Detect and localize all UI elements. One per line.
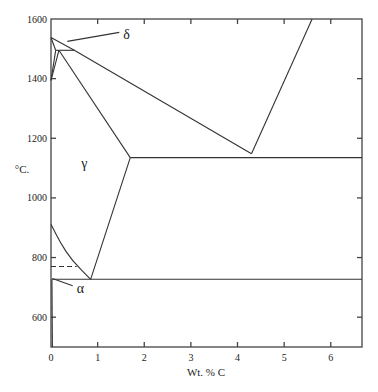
phase-boundary-liquidus-hypoeutectic [51,37,251,153]
y-axis-title: °C. [15,163,30,175]
y-tick-label: 800 [32,252,47,263]
y-tick-label: 1400 [27,73,47,84]
y-tick-label: 1600 [27,14,47,25]
phase-boundary-liquidus-hypereutectic [251,19,312,154]
x-tick-label: 6 [328,352,333,363]
y-tick-label: 1200 [27,133,47,144]
x-tick-label: 0 [49,352,54,363]
y-tick-label: 1000 [27,192,47,203]
x-axis-title: Wt. % C [187,366,225,378]
x-tick-label: 2 [142,352,147,363]
annotation-leader [67,32,119,41]
phase-label: δ [123,27,130,42]
x-tick-label: 4 [235,352,240,363]
phase-boundary-acm-line [91,158,131,280]
x-tick-label: 5 [282,352,287,363]
iron-carbon-phase-diagram: 01234566008001000120014001600 δγα Wt. % … [0,0,378,392]
plot-frame [51,19,362,347]
phase-boundary-austenite-solidus [59,50,130,157]
x-tick-label: 1 [95,352,100,363]
phase-label: γ [80,156,87,171]
phase-label: α [77,281,85,296]
phase-boundary-a3-line [51,224,91,279]
y-tick-label: 600 [32,312,47,323]
x-tick-label: 3 [188,352,193,363]
